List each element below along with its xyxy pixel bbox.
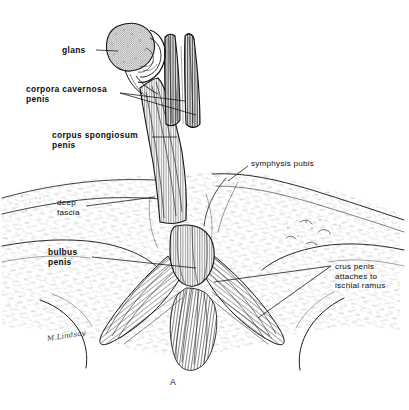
label-deep-fascia: deep fascia [57,198,80,217]
label-symphysis-pubis: symphysis pubis [251,159,314,169]
panel-letter: A [170,377,176,387]
label-bulbus-penis: bulbus penis [48,248,78,268]
bulbus-penis-structure [170,224,214,286]
figure-canvas: glanscorpora cavernosa peniscorpus spong… [0,0,409,410]
label-corpus-spongiosum: corpus spongiosum penis [52,131,138,151]
label-glans: glans [62,46,86,56]
label-crus-penis: crus penis attaches to ischial ramus [335,262,385,291]
label-corpora-cavernosa: corpora cavernosa penis [26,85,107,105]
